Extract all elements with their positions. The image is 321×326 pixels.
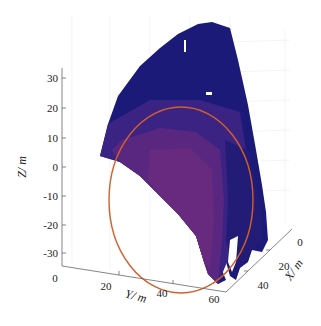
y-tick-40: 40	[157, 287, 169, 299]
surface-lower-region-inner	[148, 148, 214, 270]
x-tick-0: 0	[297, 236, 303, 248]
z-tick-30: 30	[47, 72, 59, 84]
y-tick-60: 60	[209, 293, 221, 305]
z-tick-20: 20	[47, 102, 59, 114]
y-axis-label: Y/ m	[124, 287, 149, 306]
z-tick-neg20: -20	[43, 219, 58, 231]
z-axis	[62, 68, 66, 266]
z-tick-neg10: -10	[43, 190, 58, 202]
y-tick-20: 20	[101, 280, 113, 292]
point-cloud-3d-plot: 30 20 10 0 -10 -20 -30 Z/ m 0 20 40 60 Y…	[0, 0, 321, 326]
z-tick-10: 10	[47, 132, 59, 144]
y-tick-0: 0	[52, 272, 58, 284]
y-axis	[62, 266, 226, 292]
z-tick-neg30: -30	[43, 247, 58, 259]
z-tick-labels: 30 20 10 0 -10 -20 -30	[43, 72, 58, 259]
x-tick-40: 40	[258, 279, 270, 291]
z-tick-0: 0	[53, 161, 59, 173]
z-axis-label: Z/ m	[15, 156, 29, 178]
